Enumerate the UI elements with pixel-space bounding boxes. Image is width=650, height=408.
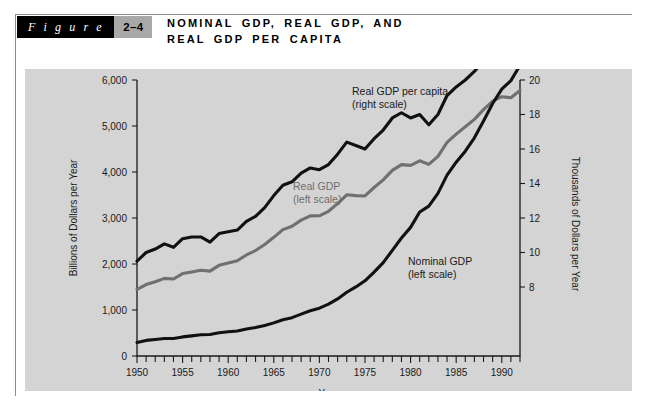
y2-axis-tick-label: 10: [529, 247, 541, 258]
y-axis-tick-label: 1,000: [102, 305, 127, 316]
y2-axis-tick-label: 12: [529, 213, 541, 224]
y2-axis-title: Thousands of Dollars per Year: [570, 157, 581, 292]
y-axis-tick-label: 0: [121, 351, 127, 362]
figure-title-line-1: NOMINAL GDP, REAL GDP, AND: [167, 15, 404, 31]
y-axis-tick-label: 4,000: [102, 167, 127, 178]
x-axis-title: Year: [318, 388, 339, 391]
header-rule-left: [15, 14, 16, 396]
y-axis-tick-label: 3,000: [102, 213, 127, 224]
chart-plot: 01,0002,0003,0004,0005,0006,000810121416…: [25, 69, 632, 391]
y-axis-tick-label: 5,000: [102, 121, 127, 132]
series-line-real-gdp-per-capita: [137, 69, 520, 261]
figure-title-line-2: REAL GDP PER CAPITA: [167, 31, 404, 47]
y-axis-title: Billions of Dollars per Year: [68, 159, 79, 276]
y2-axis-tick-label: 16: [529, 144, 541, 155]
x-axis-tick-label: 1990: [491, 367, 514, 378]
y2-axis-tick-label: 18: [529, 109, 541, 120]
x-axis-tick-label: 1965: [263, 367, 286, 378]
figure-header: F i g u r e 2–4: [17, 16, 152, 38]
chart-annotation: Real GDP per capita(right scale): [352, 85, 448, 110]
annotation-line-2: (left scale): [293, 193, 341, 205]
annotation-line-2: (right scale): [352, 98, 407, 110]
x-axis-tick-label: 1975: [354, 367, 377, 378]
figure-number-badge: 2–4: [114, 16, 152, 38]
x-axis-tick-label: 1960: [217, 367, 240, 378]
chart-annotation: Real GDP(left scale): [293, 180, 341, 205]
x-axis-tick-label: 1970: [308, 367, 331, 378]
annotation-line-1: Real GDP per capita: [352, 85, 448, 97]
x-axis-tick-label: 1950: [126, 367, 149, 378]
x-axis-tick-label: 1955: [171, 367, 194, 378]
figure-word-label: F i g u r e: [17, 16, 114, 38]
figure-container: F i g u r e 2–4 NOMINAL GDP, REAL GDP, A…: [0, 0, 650, 408]
annotation-line-1: Nominal GDP: [408, 255, 472, 267]
y2-axis-tick-label: 20: [529, 75, 541, 86]
chart-annotation: Nominal GDP(left scale): [408, 255, 472, 280]
y-axis-tick-label: 2,000: [102, 259, 127, 270]
annotation-line-1: Real GDP: [293, 180, 340, 192]
y2-axis-tick-label: 8: [529, 282, 535, 293]
annotation-line-2: (left scale): [408, 268, 456, 280]
figure-title: NOMINAL GDP, REAL GDP, AND REAL GDP PER …: [167, 15, 404, 47]
x-axis-tick-label: 1985: [445, 367, 468, 378]
y2-axis-tick-label: 14: [529, 178, 541, 189]
y-axis-tick-label: 6,000: [102, 75, 127, 86]
series-line-nominal-gdp: [137, 69, 520, 342]
x-axis-tick-label: 1980: [399, 367, 422, 378]
